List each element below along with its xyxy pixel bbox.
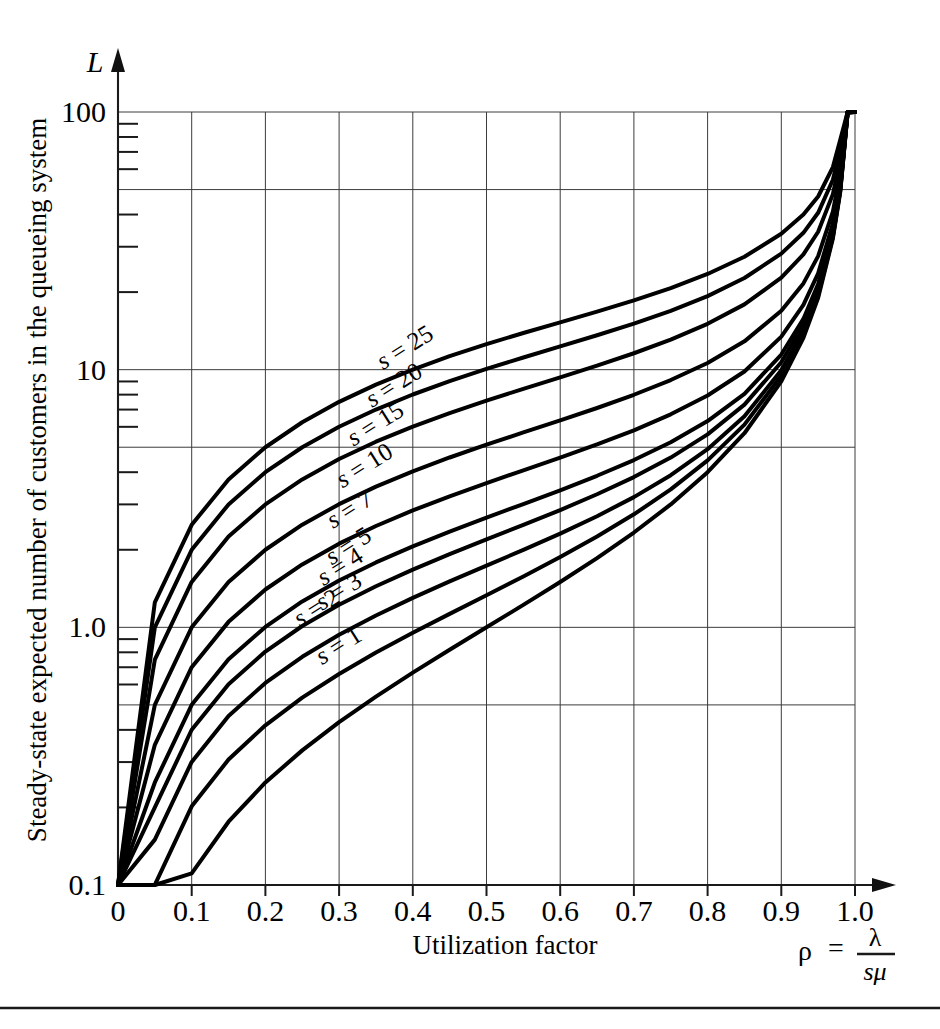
y-axis-tick-label: 0.1 xyxy=(69,868,107,901)
x-axis-tick-label: 0.8 xyxy=(689,894,727,927)
x-axis-tick-label: 0.9 xyxy=(763,894,801,927)
y-axis-symbol: L xyxy=(86,45,104,78)
rho-formula: ρ = λ sμ xyxy=(798,923,895,986)
y-axis-arrow-icon xyxy=(111,48,125,72)
x-axis-tick-label: 0.5 xyxy=(468,894,506,927)
y-axis-tick-label: 1.0 xyxy=(69,610,107,643)
x-axis-arrow-icon xyxy=(872,878,896,892)
x-axis-tick-label: 0.2 xyxy=(247,894,285,927)
y-axis-tick-label: 100 xyxy=(61,95,106,128)
x-axis-tick-label: 0.7 xyxy=(615,894,653,927)
x-axis-tick-label: 0.1 xyxy=(173,894,211,927)
chart-curve-labels: s = 1s = 2s = 3s = 4s = 5s = 7s = 10s = … xyxy=(288,319,437,669)
x-axis-tick-labels: 00.10.20.30.40.50.60.70.80.91.0 xyxy=(111,894,874,927)
x-axis-tick-label: 0.4 xyxy=(394,894,432,927)
y-axis-tick-labels: 0.11.010100 xyxy=(61,95,106,901)
formula-numerator: λ xyxy=(869,923,882,952)
x-axis-tick-label: 0 xyxy=(111,894,126,927)
figure-page: s = 1s = 2s = 3s = 4s = 5s = 7s = 10s = … xyxy=(0,0,940,1029)
formula-rho-symbol: ρ xyxy=(798,935,812,966)
y-axis-tick-label: 10 xyxy=(76,353,106,386)
formula-denominator: sμ xyxy=(863,957,886,986)
y-axis-title: Steady-state expected number of customer… xyxy=(22,118,52,842)
queueing-chart: s = 1s = 2s = 3s = 4s = 5s = 7s = 10s = … xyxy=(0,0,940,1029)
chart-gridlines xyxy=(118,112,855,885)
x-axis-tick-label: 0.6 xyxy=(541,894,579,927)
chart-axes xyxy=(111,48,896,892)
x-axis-tick-label: 0.3 xyxy=(320,894,358,927)
x-axis-title: Utilization factor xyxy=(412,930,597,960)
formula-equals-sign: = xyxy=(828,932,844,963)
